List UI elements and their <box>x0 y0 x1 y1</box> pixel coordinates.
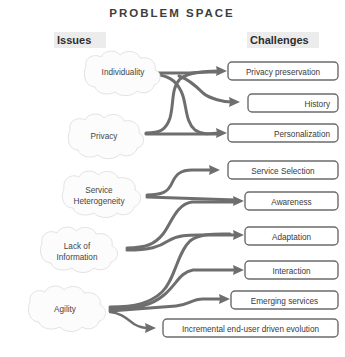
issue-node-individuality[interactable]: Individuality <box>84 51 160 96</box>
challenge-label: Personalization <box>274 130 330 139</box>
flow-agility-to-emerging-services <box>110 294 230 311</box>
flow-path <box>147 170 212 195</box>
challenge-node-adaptation[interactable]: Adaptation <box>245 227 338 245</box>
flow-lack-to-awareness <box>127 202 236 248</box>
challenge-label: History <box>305 100 331 109</box>
arrowhead-icon <box>229 97 240 107</box>
challenge-node-personalization[interactable]: Personalization <box>228 124 338 142</box>
issue-node-privacy[interactable]: Privacy <box>68 114 143 159</box>
flow-path <box>147 197 236 200</box>
issue-label: Agility <box>54 305 77 314</box>
challenge-label: Privacy preservation <box>246 68 321 77</box>
challenges-header-label: Challenges <box>250 34 309 46</box>
arrowhead-icon <box>209 165 220 175</box>
flow-path <box>110 312 148 328</box>
flow-agility-to-incremental <box>110 312 156 333</box>
challenge-node-awareness[interactable]: Awareness <box>245 192 338 210</box>
problem-space-diagram: PROBLEM SPACE Issues Challenges <box>0 0 345 357</box>
diagram-title: PROBLEM SPACE <box>109 7 234 19</box>
challenge-node-incremental[interactable]: Incremental end-user driven evolution <box>163 319 338 337</box>
flow-path <box>179 76 232 102</box>
challenge-label: Interaction <box>272 267 311 276</box>
issue-label: Lack of <box>64 242 91 251</box>
challenge-label: Service Selection <box>251 167 315 176</box>
diagram-canvas: PROBLEM SPACE Issues Challenges <box>0 0 345 357</box>
issue-node-lack-of-information[interactable]: Lack of Information <box>40 227 117 272</box>
challenge-label: Incremental end-user driven evolution <box>182 325 319 334</box>
issue-label-line2: Information <box>57 253 98 262</box>
challenge-node-service-selection[interactable]: Service Selection <box>228 161 338 179</box>
arrowhead-icon <box>145 323 156 333</box>
flow-agility-to-interaction <box>110 265 244 309</box>
issue-label-line2: Heterogeneity <box>74 197 126 206</box>
arrowhead-icon <box>219 294 230 304</box>
issue-label: Service <box>85 186 113 195</box>
arrowhead-icon <box>233 230 244 240</box>
challenge-node-emerging-services[interactable]: Emerging services <box>231 291 338 309</box>
arrowhead-icon <box>216 66 227 76</box>
challenge-node-history[interactable]: History <box>248 94 338 112</box>
issue-cloud-layer: Individuality Privacy Service Heterogene… <box>28 51 160 331</box>
challenge-node-privacy-preservation[interactable]: Privacy preservation <box>228 62 338 80</box>
challenge-label: Adaptation <box>272 233 312 242</box>
issues-header-label: Issues <box>57 34 91 46</box>
issue-node-agility[interactable]: Agility <box>28 286 105 331</box>
issue-label: Individuality <box>102 68 146 77</box>
issue-label: Privacy <box>91 132 119 141</box>
challenge-label: Awareness <box>271 198 311 207</box>
issue-node-service-heterogeneity[interactable]: Service Heterogeneity <box>62 171 140 217</box>
challenge-label: Emerging services <box>251 297 318 306</box>
flow-path <box>127 202 236 248</box>
challenge-node-interaction[interactable]: Interaction <box>245 261 338 279</box>
flow-service-to-service-selection <box>147 165 220 195</box>
flow-privacy-to-history <box>179 76 240 107</box>
arrowhead-icon <box>233 265 244 275</box>
